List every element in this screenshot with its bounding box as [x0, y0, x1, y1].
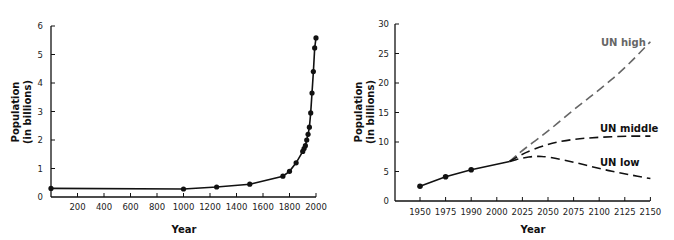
- left-x-axis-title: Year: [171, 224, 197, 235]
- data-point-marker: [312, 45, 317, 50]
- data-point-marker: [294, 160, 299, 165]
- right-y-tick-label: 15: [378, 108, 389, 118]
- left-chart-series: [48, 35, 318, 191]
- data-point-marker: [308, 110, 313, 115]
- left-x-tick-label: 2000: [305, 202, 327, 212]
- data-point-marker: [313, 35, 318, 40]
- right-x-tick-label: 1950: [409, 207, 431, 217]
- population-projection-chart: 0510152025301950197519902000202520502075…: [353, 19, 661, 235]
- right-y-tick-label: 0: [384, 196, 389, 206]
- un-high-label: UN high: [601, 37, 646, 48]
- data-point-marker: [417, 183, 423, 189]
- left-x-tick-label: 800: [149, 202, 165, 212]
- left-x-tick-label: 1800: [279, 202, 301, 212]
- right-y-axis-title-line2: (in billions): [365, 80, 376, 144]
- historical-population-chart: 0123456200400600800100012001400160018002…: [10, 21, 327, 235]
- left-y-tick-label: 0: [38, 192, 43, 202]
- left-chart-axes: 0123456200400600800100012001400160018002…: [38, 21, 327, 212]
- right-x-tick-label: 2100: [588, 207, 610, 217]
- data-point-marker: [214, 184, 219, 189]
- left-y-tick-label: 6: [38, 21, 43, 31]
- left-x-tick-label: 1600: [252, 202, 274, 212]
- right-x-tick-label: 1990: [460, 207, 482, 217]
- right-y-tick-label: 25: [378, 49, 389, 59]
- projection-line-un-high: [510, 42, 651, 162]
- population-charts: 0123456200400600800100012001400160018002…: [0, 0, 674, 240]
- right-x-tick-label: 1975: [435, 207, 457, 217]
- left-y-tick-label: 4: [38, 78, 43, 88]
- data-point-marker: [443, 174, 449, 180]
- left-series-line: [51, 38, 316, 189]
- right-y-axis-title-line1: Population: [353, 82, 364, 143]
- data-point-marker: [287, 169, 292, 174]
- data-point-marker: [303, 143, 308, 148]
- left-x-tick-label: 1400: [226, 202, 248, 212]
- data-point-marker: [48, 186, 53, 191]
- left-y-axis-title-line1: Population: [10, 82, 21, 143]
- right-x-tick-label: 2025: [512, 207, 534, 217]
- data-point-marker: [309, 90, 314, 95]
- left-y-tick-label: 5: [38, 50, 43, 60]
- data-point-marker: [247, 182, 252, 187]
- right-y-tick-label: 10: [378, 137, 389, 147]
- data-point-marker: [307, 125, 312, 130]
- right-x-tick-label: 2150: [640, 207, 662, 217]
- left-x-tick-label: 600: [122, 202, 138, 212]
- left-y-tick-label: 2: [38, 135, 43, 145]
- left-x-tick-label: 400: [96, 202, 112, 212]
- right-x-tick-label: 2000: [486, 207, 508, 217]
- data-point-marker: [304, 137, 309, 142]
- data-point-marker: [280, 174, 285, 179]
- right-x-axis-title: Year: [520, 224, 546, 235]
- left-y-tick-label: 1: [38, 164, 43, 174]
- left-y-axis-title-line2: (in billions): [22, 80, 33, 144]
- right-y-tick-label: 20: [378, 78, 389, 88]
- left-y-tick-label: 3: [38, 107, 43, 117]
- data-point-marker: [468, 167, 474, 173]
- left-x-tick-label: 1200: [199, 202, 221, 212]
- data-point-marker: [305, 132, 310, 137]
- right-x-tick-label: 2050: [537, 207, 559, 217]
- historical-line: [420, 161, 510, 186]
- right-x-tick-label: 2125: [614, 207, 636, 217]
- data-point-marker: [181, 186, 186, 191]
- left-x-tick-label: 1000: [173, 202, 195, 212]
- un-middle-label: UN middle: [600, 123, 659, 134]
- un-low-label: UN low: [600, 157, 640, 168]
- right-y-tick-label: 30: [378, 19, 389, 29]
- left-x-tick-label: 200: [69, 202, 85, 212]
- right-x-tick-label: 2075: [563, 207, 585, 217]
- data-point-marker: [311, 69, 316, 74]
- right-y-tick-label: 5: [384, 167, 389, 177]
